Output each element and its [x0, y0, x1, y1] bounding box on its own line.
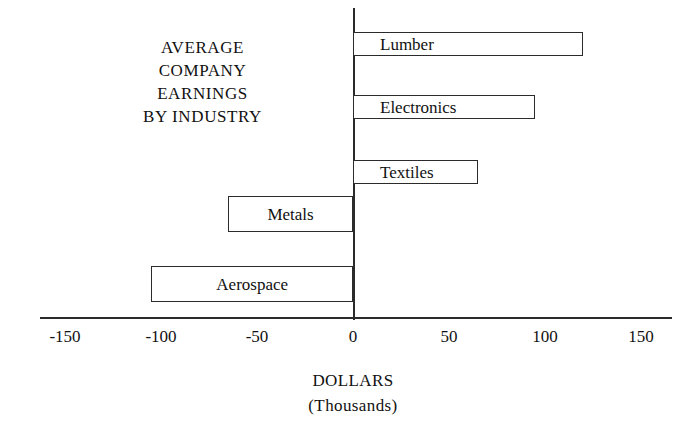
bar-label-electronics: Electronics: [380, 99, 456, 116]
x-tick-label-50: 50: [414, 327, 484, 347]
x-tick-label-neg100: -100: [126, 327, 196, 347]
bar-lumber: Lumber: [353, 32, 583, 56]
bar-label-lumber: Lumber: [380, 36, 434, 53]
bar-metals: Metals: [228, 196, 353, 232]
x-axis-title-main: DOLLARS: [253, 368, 453, 393]
x-tick-label-0: 0: [318, 327, 388, 347]
category-axis-line: [40, 317, 672, 319]
x-tick-label-neg150: -150: [30, 327, 100, 347]
chart-figure: AVERAGE COMPANY EARNINGS BY INDUSTRY Lum…: [0, 0, 695, 442]
bar-label-metals: Metals: [229, 206, 352, 223]
x-axis-title: DOLLARS (Thousands): [253, 368, 453, 418]
x-tick-label-150: 150: [606, 327, 676, 347]
bar-label-aerospace: Aerospace: [152, 276, 352, 293]
x-axis-title-units: (Thousands): [253, 393, 453, 418]
bar-textiles: Textiles: [353, 160, 478, 184]
x-tick-label-100: 100: [510, 327, 580, 347]
bar-aerospace: Aerospace: [151, 266, 353, 302]
x-tick-label-neg50: -50: [222, 327, 292, 347]
bar-electronics: Electronics: [353, 95, 535, 119]
bar-label-textiles: Textiles: [380, 164, 434, 181]
